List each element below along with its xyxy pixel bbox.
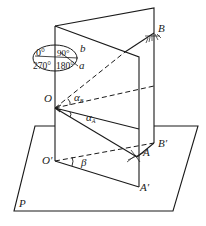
dial-270: 270° <box>33 61 51 71</box>
ray-oprime-aprime <box>55 161 139 187</box>
label-P: P <box>18 197 26 209</box>
ray-o-horizontal-a <box>55 108 139 129</box>
label-alpha-b: αB <box>74 91 84 104</box>
label-a-small: a <box>79 59 85 71</box>
hatch-b-icon <box>145 34 161 43</box>
label-A-prime: A′ <box>139 181 150 193</box>
ray-o-a <box>55 108 137 157</box>
arc-beta <box>72 157 73 166</box>
label-B-prime: B′ <box>158 137 168 149</box>
dial-180: 180° <box>56 61 74 71</box>
geometry-figure: 0° 90° 270° 180° b a B O O′ A A′ B′ P αB… <box>0 0 206 226</box>
label-O-prime: O′ <box>42 154 53 166</box>
arc-alpha-a <box>70 112 71 117</box>
label-B: B <box>158 22 165 34</box>
label-beta: β <box>80 156 87 168</box>
diagram-canvas: 0° 90° 270° 180° b a B O O′ A A′ B′ P αB… <box>0 0 206 226</box>
label-A: A <box>142 146 150 158</box>
dial-0: 0° <box>36 47 45 58</box>
label-O: O <box>44 92 52 104</box>
arc-alpha-b <box>68 99 70 105</box>
dial-90: 90° <box>57 48 70 58</box>
label-alpha-a: αA <box>86 111 96 124</box>
label-b-small: b <box>80 42 86 54</box>
